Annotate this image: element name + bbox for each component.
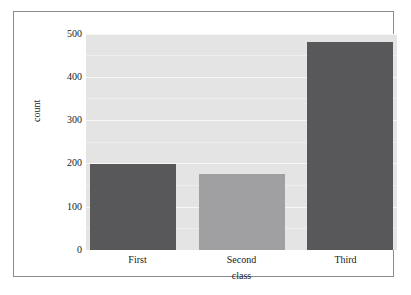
x-tick-label: First — [86, 254, 189, 266]
y-tick-label: 400 — [38, 72, 82, 82]
figure: 500 400 300 200 100 0 First Second Third… — [0, 0, 411, 295]
y-axis-ticks: 500 400 300 200 100 0 — [32, 34, 82, 250]
bar-second — [199, 174, 285, 250]
y-tick-label: 0 — [38, 245, 82, 255]
y-tick-label: 500 — [38, 29, 82, 39]
x-tick-label: Third — [294, 254, 397, 266]
bar-first — [90, 164, 176, 250]
y-tick-label: 100 — [38, 202, 82, 212]
y-tick-label: 200 — [38, 158, 82, 168]
y-axis-label: count — [32, 100, 42, 122]
plot-panel — [86, 34, 397, 250]
y-tick-label: 300 — [38, 115, 82, 125]
x-axis-label: class — [86, 270, 397, 282]
figure-frame: 500 400 300 200 100 0 First Second Third… — [13, 11, 394, 277]
x-axis-ticks: First Second Third — [86, 254, 397, 270]
x-tick-label: Second — [190, 254, 293, 266]
gridline-500 — [86, 34, 397, 35]
bar-third — [307, 42, 393, 250]
